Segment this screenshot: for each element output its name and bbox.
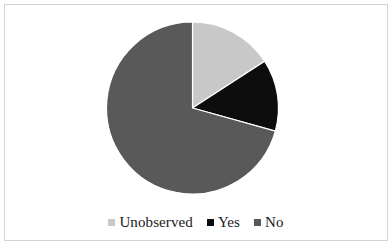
chart-legend: UnobservedYesNo [0, 210, 392, 234]
legend-label-yes: Yes [218, 214, 240, 230]
legend-swatch-yes [207, 219, 214, 226]
pie-slice-group [106, 22, 278, 194]
legend-label-no: No [265, 214, 284, 230]
legend-item-unobserved[interactable]: Unobserved [108, 214, 192, 230]
pie-svg [0, 0, 392, 205]
legend-swatch-unobserved [108, 219, 115, 226]
legend-label-unobserved: Unobserved [119, 214, 192, 230]
legend-item-no[interactable]: No [254, 214, 284, 230]
legend-item-yes[interactable]: Yes [207, 214, 240, 230]
pie-chart-figure: UnobservedYesNo [0, 0, 392, 245]
legend-swatch-no [254, 219, 261, 226]
pie-plot-area [0, 0, 392, 205]
